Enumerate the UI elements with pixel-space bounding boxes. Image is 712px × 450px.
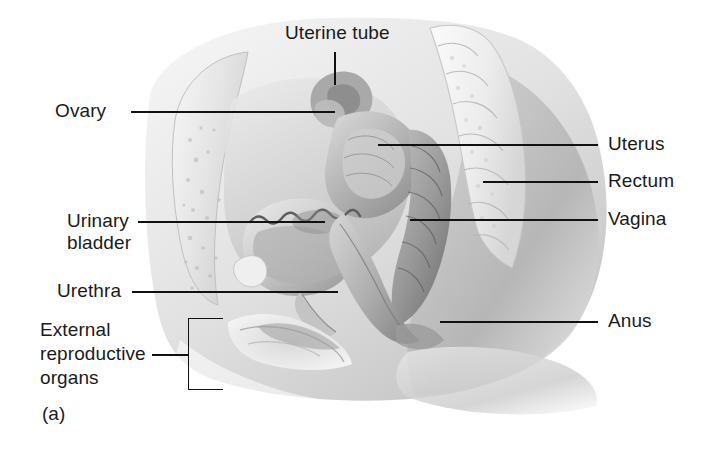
leader-rectum — [483, 181, 598, 183]
leader-urinary-bladder — [138, 221, 325, 223]
anatomy-figure: Uterine tube Ovary Urinary bladder Ureth… — [0, 0, 712, 450]
label-urinary-bladder-line1: Urinary — [67, 210, 129, 232]
label-external-organs-line1: External — [40, 319, 111, 341]
figure-caption: (a) — [42, 403, 65, 425]
leader-urethra — [132, 291, 338, 293]
label-vagina: Vagina — [608, 208, 666, 230]
label-ovary: Ovary — [55, 100, 106, 122]
label-urethra: Urethra — [57, 280, 121, 302]
label-external-organs-line3: organs — [40, 367, 99, 389]
label-uterus: Uterus — [608, 133, 665, 155]
leader-external-organs — [152, 354, 189, 356]
leader-uterus — [378, 144, 598, 146]
label-uterine-tube: Uterine tube — [285, 22, 390, 44]
thigh-mass — [396, 347, 597, 415]
label-external-organs-line2: reproductive — [40, 343, 146, 365]
leader-vagina — [410, 219, 598, 221]
label-anus: Anus — [608, 310, 652, 332]
leader-ovary — [131, 111, 335, 113]
leader-uterine-tube — [334, 52, 336, 85]
external-organs-bracket — [188, 318, 223, 390]
leader-anus — [440, 321, 598, 323]
label-urinary-bladder-line2: bladder — [67, 232, 131, 254]
label-rectum: Rectum — [608, 170, 674, 192]
